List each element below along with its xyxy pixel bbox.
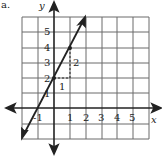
x-axis [6,104,161,112]
x-tick-label: -1 [33,112,43,123]
x-tick-label: 5 [129,112,135,123]
x-tick-label: 3 [98,112,104,123]
y-tick-label: 3 [44,57,50,68]
y-tick-label: 1 [44,88,50,99]
y-tick-label: 2 [44,73,50,84]
part-label: a. [1,0,10,10]
x-tick-label: 4 [114,112,120,123]
x-tick-label: 1 [67,112,73,123]
y-tick-label: 4 [44,42,50,53]
x-tick-label: 2 [83,112,89,123]
coordinate-plane: a. y x -1 1 2 3 4 5 1 2 3 4 5 1 2 [0,0,162,162]
y-tick-label: 5 [44,26,50,37]
y-axis-label: y [38,0,45,11]
point-1-4 [68,46,72,50]
x-axis-label: x [151,114,157,125]
run-label: 1 [59,81,65,92]
point-0-2 [52,76,56,80]
rise-label: 2 [73,57,79,68]
